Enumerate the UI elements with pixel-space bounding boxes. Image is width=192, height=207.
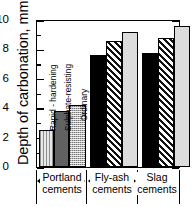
group-label-flyash-line2: cements — [90, 184, 134, 196]
group-label-flyash: Fly-ash cements — [90, 172, 134, 195]
bar-caption-ordinary: Ordinary — [80, 89, 88, 121]
bracket-divider-right — [179, 170, 180, 204]
y-tick-label-6: 6 — [0, 73, 9, 85]
y-tick-label-8: 8 — [0, 43, 9, 55]
bar-portland-rapid-hardening — [39, 130, 54, 167]
bar-flyash-2 — [106, 41, 122, 167]
group-label-slag: Slag cements — [136, 172, 178, 195]
bar-flyash-1 — [90, 55, 106, 167]
y-tick-major-6 — [37, 79, 44, 80]
bar-slag-2 — [158, 38, 174, 167]
y-tick-label-10: 10 — [0, 14, 9, 26]
y-axis-title: Depth of carbonation, mm — [15, 5, 33, 165]
group-bracket-axis: Portland cements Fly-ash cements Slag ce… — [36, 170, 180, 204]
bar-slag-3 — [174, 26, 190, 167]
y-tick-label-4: 4 — [0, 102, 9, 114]
y-tick-major-0 — [37, 167, 44, 168]
y-tick-major-8 — [37, 50, 44, 51]
bracket-divider-1 — [86, 170, 87, 204]
group-label-portland: Portland cements — [40, 172, 84, 195]
y-tick-label-0: 0 — [0, 161, 9, 173]
y-tick-label-2: 2 — [0, 132, 9, 144]
y-tick-minor-3 — [37, 123, 41, 124]
bar-caption-rapid-hardening: Rapid - hardening — [49, 64, 57, 131]
y-tick-major-4 — [37, 108, 44, 109]
y-tick-right-major-10 — [172, 20, 179, 21]
carbonation-depth-bar-chart: Depth of carbonation, mm 10 8 6 4 2 0 — [0, 0, 192, 207]
y-tick-major-10 — [37, 20, 44, 21]
group-label-flyash-line1: Fly-ash — [90, 172, 134, 184]
y-tick-minor-7 — [37, 64, 41, 65]
group-label-portland-line2: cements — [40, 184, 84, 196]
group-label-portland-line1: Portland — [40, 172, 84, 184]
group-label-slag-line1: Slag — [136, 172, 178, 184]
bar-caption-sulphate-resisting: Sulphate-resisting — [64, 64, 72, 131]
bar-flyash-3 — [122, 32, 138, 167]
y-tick-minor-5 — [37, 94, 41, 95]
plot-area: Rapid - hardening Sulphate-resisting Ord… — [36, 20, 180, 168]
group-label-slag-line2: cements — [136, 184, 178, 196]
bracket-divider-left — [36, 170, 37, 204]
bar-slag-1 — [142, 53, 158, 167]
y-tick-minor-9 — [37, 35, 41, 36]
y-tick-right-major-0 — [172, 167, 179, 168]
